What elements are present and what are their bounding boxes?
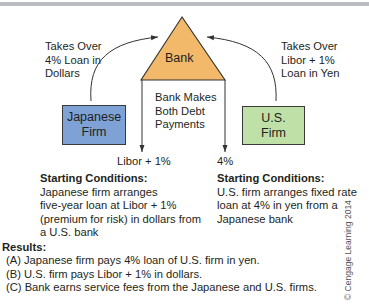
result-item: (A) Japanese firm pays 4% loan of U.S. f… <box>6 254 317 268</box>
results-heading-text: Results: <box>2 241 46 255</box>
copyright-notice: © Cengage Learning 2014 <box>343 200 353 300</box>
japanese-firm-label-2: Firm <box>67 125 121 140</box>
left-arrow-label-line: Takes Over <box>45 40 102 54</box>
left-starting-line: (premium for risk) in dollars from <box>40 213 201 227</box>
left-starting-line: a U.S. bank <box>40 226 201 240</box>
us-firm-box: U.S. Firm <box>242 106 305 145</box>
left-starting-line: Japanese firm arranges <box>40 186 201 200</box>
right-arrow-label: Takes Over Libor + 1% Loan in Yen <box>281 40 340 81</box>
right-arrow-label-line: Libor + 1% <box>281 54 340 68</box>
bank-label: Bank <box>165 51 194 65</box>
right-arrow-label-line: Takes Over <box>281 40 340 54</box>
right-starting-line: Japanese bank <box>217 213 357 227</box>
results-heading: Results: <box>2 241 46 255</box>
center-label: Bank Makes Both Debt Payments <box>155 91 217 132</box>
japanese-firm-box: Japanese Firm <box>62 105 126 145</box>
result-item: (B) U.S. firm pays Libor + 1% in dollars… <box>6 268 317 282</box>
left-starting-heading: Starting Conditions: <box>40 172 201 186</box>
result-item: (C) Bank earns service fees from the Jap… <box>6 281 317 295</box>
left-starting-conditions: Starting Conditions: Japanese firm arran… <box>40 172 201 240</box>
right-arrow-label-line: Loan in Yen <box>281 67 340 81</box>
results-list: (A) Japanese firm pays 4% loan of U.S. f… <box>6 254 317 295</box>
left-arrow-label-line: Dollars <box>45 67 102 81</box>
center-label-line: Bank Makes <box>155 91 217 105</box>
right-starting-line: U.S. firm arranges fixed rate <box>217 186 357 200</box>
right-starting-line: loan at 4% in yen from a <box>217 199 357 213</box>
right-starting-heading: Starting Conditions: <box>217 172 357 186</box>
center-label-line: Payments <box>155 118 217 132</box>
bank-triangle <box>141 17 225 80</box>
left-payment-label: Libor + 1% <box>117 155 171 169</box>
right-starting-conditions: Starting Conditions: U.S. firm arranges … <box>217 172 357 226</box>
left-arrow-label-line: 4% Loan in <box>45 54 102 68</box>
left-arrow-label: Takes Over 4% Loan in Dollars <box>45 40 102 81</box>
japanese-firm-label-1: Japanese <box>67 110 121 125</box>
left-starting-line: five-year loan at Libor + 1% <box>40 199 201 213</box>
right-payment-label: 4% <box>217 155 233 169</box>
us-firm-label-1: U.S. <box>261 111 286 126</box>
center-label-line: Both Debt <box>155 105 217 119</box>
us-firm-label-2: Firm <box>261 126 286 141</box>
